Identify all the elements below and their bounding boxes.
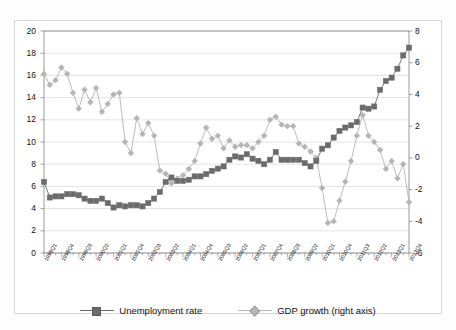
y-axis-left-tick-label: 12 xyxy=(18,114,36,124)
y-axis-left-tick-label: 6 xyxy=(18,181,36,191)
y-axis-left-tick-label: 20 xyxy=(18,26,36,36)
legend-marker-diamond-icon xyxy=(238,306,272,315)
chart-figure: 02468101214161820 -6-4-202468 1998Q11998… xyxy=(0,0,456,330)
y-axis-left-tick-label: 0 xyxy=(18,248,36,258)
legend-marker-square-icon xyxy=(80,306,114,315)
series-unemployment-rate xyxy=(41,45,411,210)
legend-item-unemployment-rate[interactable]: Unemployment rate xyxy=(80,305,202,316)
y-axis-left-tick-label: 10 xyxy=(18,137,36,147)
y-axis-right-tick-label: 8 xyxy=(415,26,435,36)
y-axis-right-tick-label: 4 xyxy=(415,89,435,99)
y-axis-left-tick-label: 2 xyxy=(18,225,36,235)
gridlines xyxy=(44,31,409,253)
chart-legend: Unemployment rate GDP growth (right axis… xyxy=(0,299,456,321)
y-axis-left-tick-label: 8 xyxy=(18,159,36,169)
y-axis-right-tick-label: 2 xyxy=(415,121,435,131)
chart-canvas xyxy=(0,0,456,330)
legend-item-gdp-growth[interactable]: GDP growth (right axis) xyxy=(238,305,376,316)
y-axis-left-tick-label: 18 xyxy=(18,48,36,58)
y-axis-right-tick-label: 0 xyxy=(415,152,435,162)
y-axis-right-tick-label: -4 xyxy=(415,216,435,226)
y-axis-right-tick-label: 6 xyxy=(415,57,435,67)
y-axis-left-tick-label: 4 xyxy=(18,203,36,213)
y-axis-right-tick-label: -2 xyxy=(415,184,435,194)
legend-label-gdp-growth: GDP growth (right axis) xyxy=(277,305,376,316)
y-axis-left-tick-label: 14 xyxy=(18,92,36,102)
legend-label-unemployment-rate: Unemployment rate xyxy=(119,305,202,316)
y-axis-left-tick-label: 16 xyxy=(18,70,36,80)
